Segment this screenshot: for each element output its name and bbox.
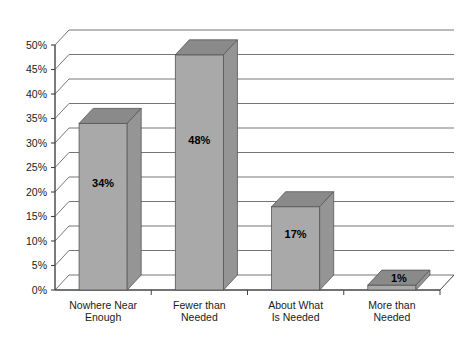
y-axis-tick-label: 25% bbox=[26, 161, 47, 173]
x-axis-category-label: Nowhere Near bbox=[69, 299, 137, 311]
y-axis-tick-label: 20% bbox=[26, 186, 47, 198]
x-axis-category-label: Needed bbox=[181, 311, 218, 323]
y-axis-tick-label: 50% bbox=[26, 39, 47, 51]
gridline-riser bbox=[55, 128, 69, 143]
bar-value-label: 48% bbox=[188, 134, 210, 146]
gridline-riser bbox=[55, 55, 69, 70]
x-axis-category-label: Is Needed bbox=[272, 311, 320, 323]
bar-side-face bbox=[127, 108, 141, 290]
x-axis-category-label: More than bbox=[368, 299, 415, 311]
gridline-riser bbox=[55, 251, 69, 266]
floor-depth-edge bbox=[440, 275, 454, 290]
bar-side-face bbox=[320, 192, 334, 290]
y-axis-tick-label: 10% bbox=[26, 235, 47, 247]
x-axis-category-label: Fewer than bbox=[173, 299, 226, 311]
y-axis-tick-label: 35% bbox=[26, 112, 47, 124]
gridline-riser bbox=[55, 104, 69, 119]
bar-front-face bbox=[175, 55, 223, 290]
bar-column bbox=[272, 192, 334, 290]
gridline-riser bbox=[55, 226, 69, 241]
chart-container: 0%5%10%15%20%25%30%35%40%45%50% 34%48%17… bbox=[0, 0, 457, 341]
gridline-riser bbox=[55, 30, 69, 45]
gridline-riser bbox=[55, 177, 69, 192]
gridline-riser bbox=[55, 202, 69, 217]
bar-value-label: 1% bbox=[391, 272, 407, 284]
gridline-riser bbox=[55, 153, 69, 168]
bar-side-face bbox=[223, 40, 237, 290]
y-axis-tick-label: 40% bbox=[26, 88, 47, 100]
bar-front-face bbox=[79, 123, 127, 290]
bar-column bbox=[175, 40, 237, 290]
gridline-riser bbox=[55, 79, 69, 94]
x-axis-category-label: Needed bbox=[373, 311, 410, 323]
bar-front-face bbox=[368, 285, 416, 290]
y-axis-tick-label: 0% bbox=[32, 284, 47, 296]
y-axis-tick-label: 5% bbox=[32, 259, 47, 271]
bar-chart-3d: 0%5%10%15%20%25%30%35%40%45%50% 34%48%17… bbox=[0, 0, 457, 341]
x-axis-category-labels: Nowhere NearEnoughFewer thanNeededAbout … bbox=[69, 299, 415, 323]
gridline-riser bbox=[55, 275, 69, 290]
y-axis-tick-label: 30% bbox=[26, 137, 47, 149]
y-axis-tick-label: 45% bbox=[26, 63, 47, 75]
bar-value-label: 17% bbox=[285, 228, 307, 240]
bar-front-face bbox=[272, 207, 320, 290]
y-axis-tick-label: 15% bbox=[26, 210, 47, 222]
x-axis-category-label: Enough bbox=[85, 311, 121, 323]
bar-column bbox=[79, 108, 141, 290]
y-axis-tick-labels: 0%5%10%15%20%25%30%35%40%45%50% bbox=[26, 39, 47, 296]
x-axis-category-label: About What bbox=[268, 299, 323, 311]
bar-series bbox=[79, 40, 430, 290]
bar-value-label: 34% bbox=[92, 177, 114, 189]
